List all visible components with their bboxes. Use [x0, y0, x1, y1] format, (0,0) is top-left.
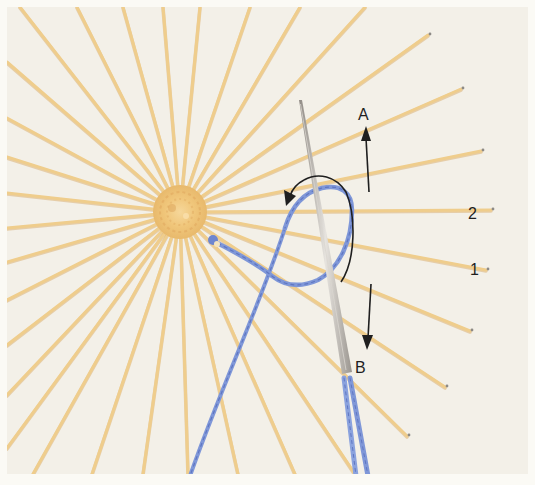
stitch-illustration: A B 2 1 [0, 0, 535, 485]
pinhole [408, 434, 411, 437]
label-spoke-1: 1 [470, 261, 479, 278]
spider-web-stitch-photo: A B 2 1 [0, 0, 535, 485]
label-b: B [355, 359, 366, 376]
pinhole [462, 87, 465, 90]
pinhole [482, 149, 485, 152]
label-spoke-2: 2 [468, 205, 477, 222]
spoke [180, 210, 491, 212]
label-a: A [358, 106, 369, 123]
pinhole [446, 385, 449, 388]
pinhole [429, 33, 432, 36]
center-woven-knot [153, 185, 207, 239]
pinhole [492, 208, 495, 211]
pinhole [471, 329, 474, 332]
pinhole [487, 268, 490, 271]
